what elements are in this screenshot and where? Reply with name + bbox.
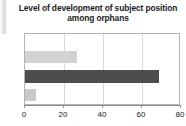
chart-figure: Level of development of subject position… [0, 0, 186, 126]
x-tick-label: 80 [168, 110, 186, 119]
page-edge-artifact [0, 0, 7, 34]
x-tick-label: 60 [129, 110, 153, 119]
x-tick-mark [180, 105, 181, 108]
x-tick-mark [102, 105, 103, 108]
bar-series-item[interactable] [25, 51, 77, 63]
x-tick-mark [63, 105, 64, 108]
gridline [142, 34, 143, 104]
bar-series-item[interactable] [25, 70, 159, 83]
chart-title-line-1: Level of development of subject position [14, 3, 182, 13]
x-tick-label: 20 [51, 110, 75, 119]
chart-title: Level of development of subject position… [14, 3, 182, 24]
x-tick-mark [24, 105, 25, 108]
plot-area [24, 33, 180, 105]
bar-series-item[interactable] [25, 89, 36, 101]
x-tick-mark [141, 105, 142, 108]
chart-title-line-2: among orphans [14, 13, 182, 23]
gridline [64, 34, 65, 104]
gridline [103, 34, 104, 104]
x-tick-label: 40 [90, 110, 114, 119]
x-tick-label: 0 [12, 110, 36, 119]
